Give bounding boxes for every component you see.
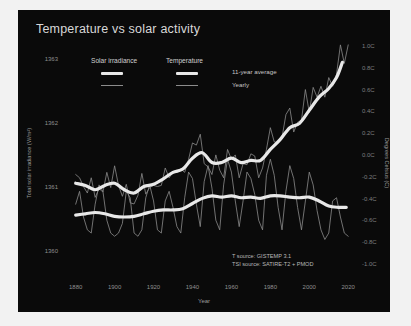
chart-figure: Temperature vs solar activity Total sola… [18, 10, 390, 312]
plot-area [18, 10, 390, 312]
series-line [76, 45, 349, 204]
series-line [76, 159, 349, 239]
